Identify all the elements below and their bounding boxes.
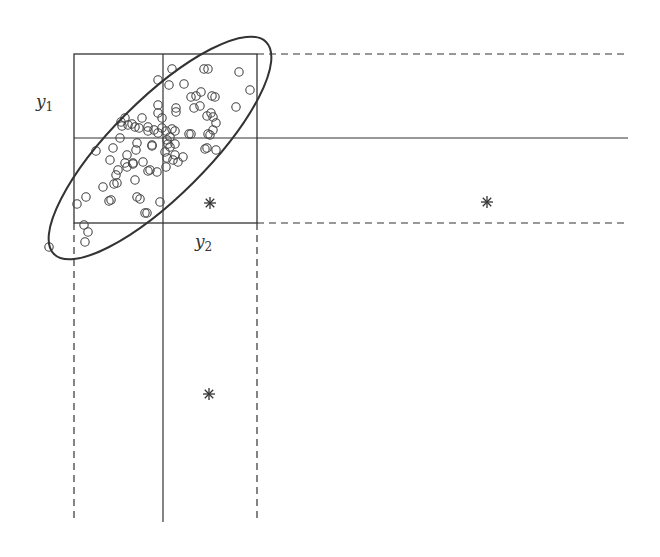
- bivariate-diagram: y1 y2: [0, 0, 660, 557]
- outlier-markers: [203, 196, 493, 400]
- data-point: [82, 193, 90, 201]
- data-point: [187, 130, 195, 138]
- data-point: [139, 158, 147, 166]
- data-point: [246, 86, 254, 94]
- data-point: [133, 193, 141, 201]
- data-point: [174, 158, 182, 166]
- data-point: [112, 171, 120, 179]
- data-point: [136, 195, 144, 203]
- asterisk-icon: [204, 197, 216, 209]
- asterisk-icon: [203, 388, 215, 400]
- data-point: [123, 151, 131, 159]
- data-point: [211, 93, 219, 101]
- data-point: [84, 228, 92, 236]
- data-point: [232, 103, 240, 111]
- data-point: [106, 156, 114, 164]
- data-point: [113, 179, 121, 187]
- data-point: [114, 166, 122, 174]
- data-point: [166, 143, 174, 151]
- data-point: [81, 238, 89, 246]
- data-point: [131, 176, 139, 184]
- asterisk-icon: [481, 196, 493, 208]
- data-point: [180, 80, 188, 88]
- data-point: [179, 153, 187, 161]
- data-point: [99, 183, 107, 191]
- data-point: [143, 209, 151, 217]
- data-point: [154, 101, 162, 109]
- data-point: [185, 130, 193, 138]
- data-point: [212, 146, 220, 154]
- y1-axis-label: y1: [35, 91, 53, 114]
- data-point: [109, 144, 117, 152]
- y2-axis-label: y2: [194, 231, 212, 254]
- guide-lines: [74, 54, 628, 522]
- data-point: [165, 81, 173, 89]
- data-point: [138, 114, 146, 122]
- data-point: [235, 68, 243, 76]
- confidence-ellipse: [20, 8, 300, 288]
- ellipse-contour: [20, 8, 300, 288]
- data-point: [141, 209, 149, 217]
